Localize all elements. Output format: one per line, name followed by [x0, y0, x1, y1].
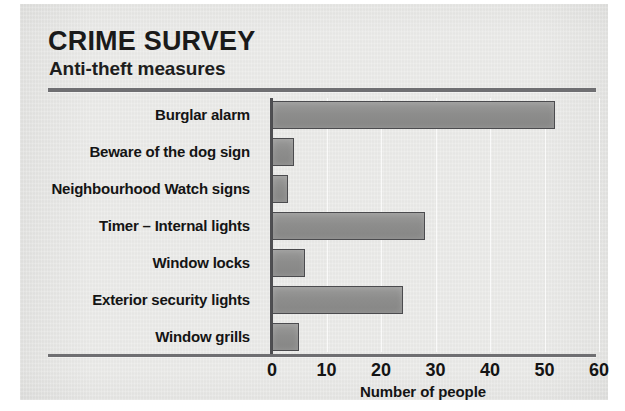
gridline-30 — [436, 98, 437, 352]
plot-area — [250, 96, 596, 354]
chart-subtitle: Anti-theft measures — [49, 58, 226, 80]
x-tick-label-0: 0 — [267, 360, 277, 381]
bar-row[interactable] — [272, 101, 555, 129]
gridline-50 — [545, 98, 546, 352]
x-tick-label-10: 10 — [316, 360, 336, 381]
bar-row[interactable] — [272, 175, 288, 203]
bar-0[interactable] — [272, 101, 555, 129]
plot-bottom-rule — [48, 354, 596, 357]
bar-row[interactable] — [272, 138, 294, 166]
x-tick-label-20: 20 — [371, 360, 391, 381]
bar-1[interactable] — [272, 138, 294, 166]
x-tick-label-50: 50 — [534, 360, 554, 381]
x-tick-label-60: 60 — [589, 360, 609, 381]
category-label: Window grills — [10, 328, 250, 345]
value-axis-tick-labels: 0102030405060 — [250, 360, 596, 384]
bar-row[interactable] — [272, 249, 305, 277]
bar-6[interactable] — [272, 323, 299, 351]
bar-5[interactable] — [272, 286, 403, 314]
scanned-paper-background: CRIME SURVEY Anti-theft measures Burglar… — [20, 4, 608, 400]
bar-row[interactable] — [272, 323, 299, 351]
category-label: Timer – Internal lights — [10, 217, 250, 234]
chart-page: CRIME SURVEY Anti-theft measures Burglar… — [0, 0, 625, 411]
category-label: Window locks — [10, 254, 250, 271]
header-divider-rule — [48, 88, 596, 92]
x-tick-label-40: 40 — [480, 360, 500, 381]
x-axis-title: Number of people — [250, 383, 596, 400]
gridline-60 — [599, 98, 600, 352]
category-label: Burglar alarm — [10, 106, 250, 123]
category-label: Neighbourhood Watch signs — [10, 180, 250, 197]
category-axis-labels: Burglar alarmBeware of the dog signNeigh… — [8, 96, 250, 354]
category-label: Beware of the dog sign — [10, 143, 250, 160]
gridline-40 — [490, 98, 491, 352]
bar-row[interactable] — [272, 286, 403, 314]
category-label: Exterior security lights — [10, 291, 250, 308]
bar-row[interactable] — [272, 212, 425, 240]
bar-3[interactable] — [272, 212, 425, 240]
chart-title: CRIME SURVEY — [48, 26, 255, 57]
bar-4[interactable] — [272, 249, 305, 277]
bar-2[interactable] — [272, 175, 288, 203]
x-tick-label-30: 30 — [425, 360, 445, 381]
